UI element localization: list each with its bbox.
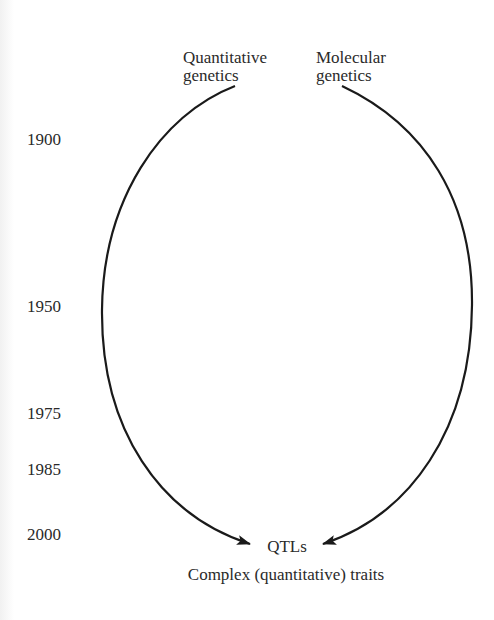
quantitative-genetics-arrow — [102, 86, 250, 544]
converging-arrows — [0, 0, 494, 620]
complex-traits-label: Complex (quantitative) traits — [150, 566, 422, 584]
qtls-label: QTLs — [256, 538, 318, 556]
molecular-genetics-arrow — [323, 86, 472, 544]
